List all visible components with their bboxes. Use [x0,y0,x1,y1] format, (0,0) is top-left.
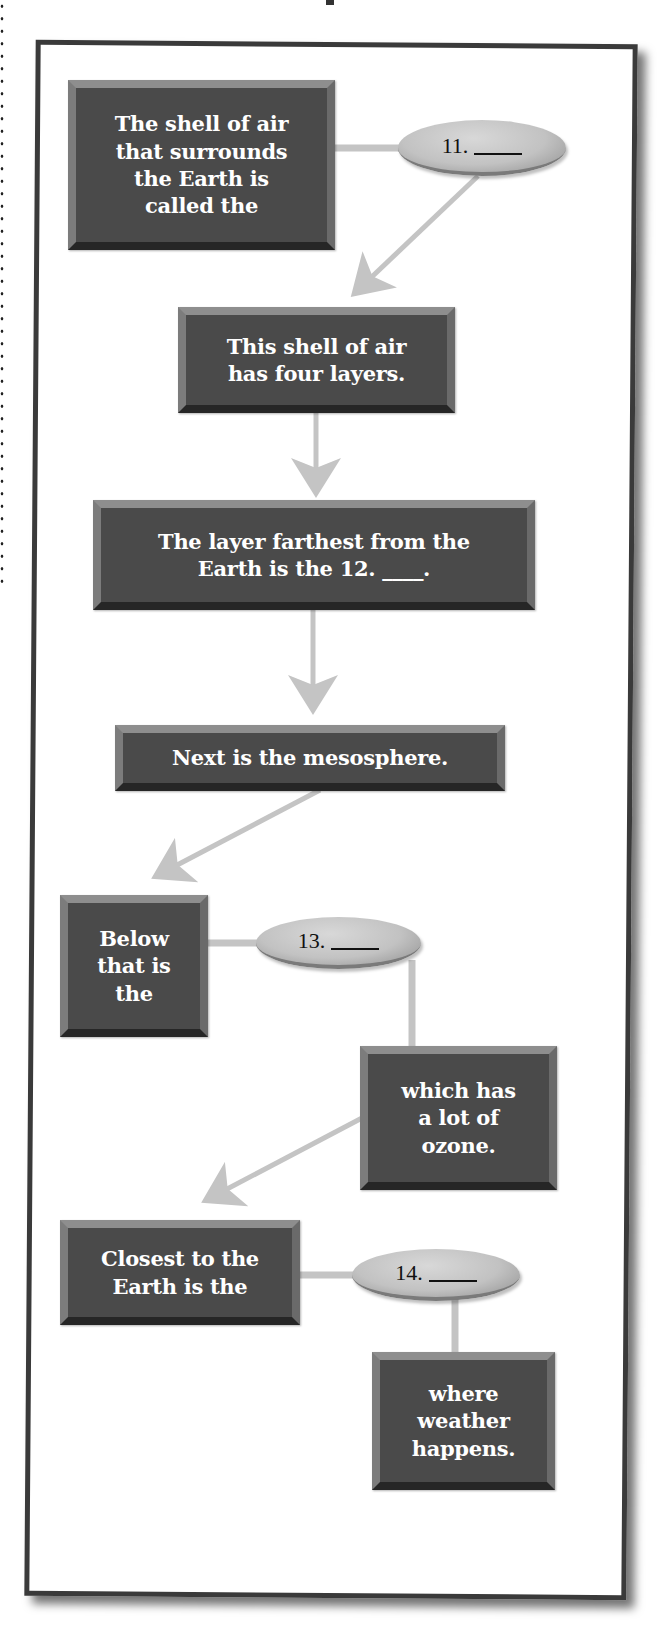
box-text: which has a lot of ozone. [401,1077,516,1159]
box-farthest-layer: The layer farthest from the Earth is the… [93,500,535,610]
arrow-oval11-box2 [358,176,478,290]
box-atmosphere-definition: The shell of air that surrounds the Eart… [68,80,335,250]
box-closest-layer: Closest to the Earth is the [60,1220,300,1325]
answer-blank[interactable] [331,932,379,950]
box-text: Below that is the [97,925,170,1007]
answer-oval-13[interactable]: 13. [256,917,421,969]
box-text: The shell of air that surrounds the Eart… [115,110,289,219]
answer-oval-11[interactable]: 11. [398,120,566,176]
box-text: The layer farthest from the Earth is the… [158,528,470,583]
arrow-box4-box5 [160,790,320,874]
answer-number: 14. [395,1260,423,1286]
box-text: This shell of air has four layers. [227,333,407,388]
answer-oval-14[interactable]: 14. [352,1249,520,1301]
box-text: Next is the mesosphere. [172,744,448,771]
box-mesosphere: Next is the mesosphere. [115,725,505,791]
answer-number: 11. [442,133,469,159]
box-text: where weather happens. [412,1380,516,1462]
atmosphere-flow-diagram: The shell of air that surrounds the Eart… [0,0,668,1642]
box-ozone: which has a lot of ozone. [360,1046,557,1190]
answer-blank[interactable] [474,137,522,155]
arrow-box6-box7 [210,1118,362,1198]
box-below-that: Below that is the [60,895,208,1037]
box-text: Closest to the Earth is the [101,1245,259,1300]
box-four-layers: This shell of air has four layers. [178,307,455,413]
box-weather: where weather happens. [372,1352,555,1490]
answer-number: 13. [298,928,326,954]
answer-blank[interactable] [429,1264,477,1282]
